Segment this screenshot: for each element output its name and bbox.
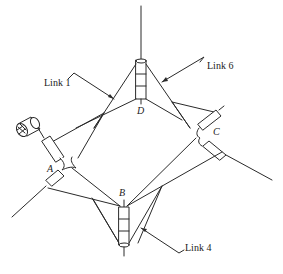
leader-link1 <box>68 73 114 99</box>
joint-c-hub <box>197 128 202 146</box>
linkage-diagram: Link 1 Link 6 Link 4 A B C D <box>0 0 283 274</box>
linkage-drawing <box>0 0 283 274</box>
joint-d-label: D <box>137 106 144 116</box>
link-c-b-lower <box>127 152 222 206</box>
joint-d-cylinder <box>136 59 146 104</box>
joint-a-label: A <box>47 164 53 174</box>
joint-c-lower-cylinder <box>203 141 226 160</box>
leader-link6 <box>162 57 204 82</box>
leader-link4 <box>141 228 184 253</box>
link1-label: Link 1 <box>44 78 70 88</box>
joint-a-hub <box>60 157 76 170</box>
link-c-b-upper <box>127 138 196 206</box>
link6-label: Link 6 <box>207 61 233 71</box>
motor-shaft <box>38 128 44 138</box>
joint-c-label: C <box>213 127 220 137</box>
shaft-a-lower <box>12 186 46 217</box>
shaft-c-lower <box>226 155 272 180</box>
link-b-left-bottom <box>93 199 119 243</box>
link4-label: Link 4 <box>185 243 211 253</box>
link-b-right-bottom <box>129 186 162 243</box>
joint-b-label: B <box>119 188 125 198</box>
joint-b-cylinder <box>119 207 129 247</box>
leader-arrowheads <box>108 77 168 232</box>
motor-icon <box>14 116 41 139</box>
